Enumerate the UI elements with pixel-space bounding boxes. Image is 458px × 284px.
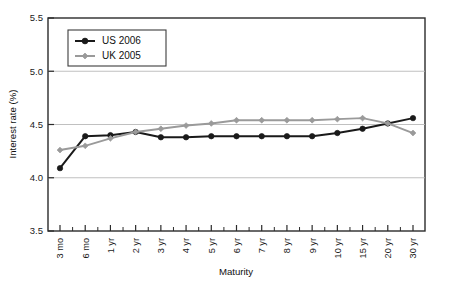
data-point-marker xyxy=(183,135,188,140)
data-point-marker xyxy=(83,134,88,139)
x-tick-label: 3 yr xyxy=(156,238,166,253)
x-tick-label: 10 yr xyxy=(333,238,343,258)
data-point-marker xyxy=(259,134,264,139)
x-tick-label: 9 yr xyxy=(308,238,318,253)
x-tick-label: 20 yr xyxy=(383,238,393,258)
x-tick-label: 2 yr xyxy=(131,238,141,253)
x-tick-label: 6 yr xyxy=(232,238,242,253)
x-tick-label: 15 yr xyxy=(358,238,368,258)
y-tick-label: 4.5 xyxy=(30,119,43,130)
interest-rate-line-chart: 3.54.04.55.05.5 3 mo6 mo1 yr2 yr3 yr4 yr… xyxy=(0,0,458,284)
chart-legend: US 2006UK 2005 xyxy=(68,30,166,66)
x-axis-title: Maturity xyxy=(219,266,253,277)
data-point-marker xyxy=(209,134,214,139)
y-axis-title: Interest rate (%) xyxy=(7,90,18,159)
data-point-marker xyxy=(335,130,340,135)
x-tick-label: 5 yr xyxy=(207,238,217,253)
x-tick-label: 7 yr xyxy=(257,238,267,253)
x-tick-label: 3 mo xyxy=(55,238,65,258)
data-point-marker xyxy=(309,134,314,139)
data-point-marker xyxy=(284,134,289,139)
legend-label: US 2006 xyxy=(102,35,141,46)
data-point-marker xyxy=(158,135,163,140)
y-tick-label: 5.0 xyxy=(30,66,43,77)
x-tick-label: 4 yr xyxy=(181,238,191,253)
x-tick-label: 1 yr xyxy=(106,238,116,253)
legend-marker xyxy=(82,38,88,44)
data-point-marker xyxy=(410,115,415,120)
legend-label: UK 2005 xyxy=(102,50,141,61)
data-point-marker xyxy=(57,165,62,170)
data-point-marker xyxy=(234,134,239,139)
x-tick-label: 30 yr xyxy=(408,238,418,258)
data-point-marker xyxy=(360,126,365,131)
y-tick-label: 3.5 xyxy=(30,225,43,236)
x-tick-label: 6 mo xyxy=(81,238,91,258)
y-tick-label: 5.5 xyxy=(30,12,43,23)
y-tick-label: 4.0 xyxy=(30,172,43,183)
x-tick-label: 8 yr xyxy=(282,238,292,253)
chart-figure: 3.54.04.55.05.5 3 mo6 mo1 yr2 yr3 yr4 yr… xyxy=(0,0,458,284)
